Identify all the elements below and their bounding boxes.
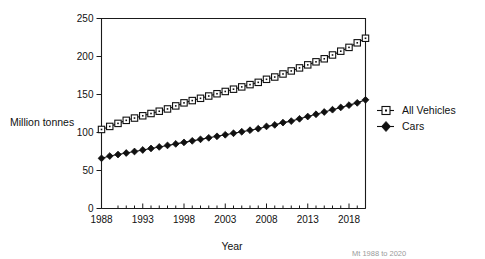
data-point-marker [189,137,196,144]
footnote: Mt 1988 to 2020 [352,249,406,258]
y-tick-label: 0 [88,203,94,214]
x-axis-label: Year [221,240,243,252]
x-axis-ticks [102,204,366,209]
data-point-marker-center [365,37,367,39]
data-point-marker-center [167,108,169,110]
data-point-marker [280,119,287,126]
x-tick-label: 2018 [338,214,361,225]
data-point-marker [106,153,113,160]
legend-label-cars: Cars [402,120,424,132]
data-point-marker [115,151,122,158]
data-point-marker-center [150,113,152,115]
data-point-marker-center [323,58,325,60]
data-point-marker [288,118,295,125]
data-point-marker [205,134,212,141]
data-point-marker-center [290,70,292,72]
line-chart-canvas: 050100150200250 198819931998200320082013… [0,0,485,259]
data-point-marker [329,106,336,113]
data-point-marker [172,141,179,148]
data-point-marker-center [224,91,226,93]
y-axis-ticks [97,19,102,209]
x-tick-label: 2008 [255,214,278,225]
data-point-marker-center [332,54,334,56]
data-point-marker-center [117,123,119,125]
data-point-marker-center [282,73,284,75]
data-point-marker [164,142,171,149]
data-point-marker-center [158,110,160,112]
x-axis-tick-labels: 1988199319982003200820132018 [90,214,360,225]
data-point-marker-center [134,117,136,119]
y-axis-label: Million tonnes [10,116,74,128]
data-point-marker [362,96,369,103]
chart-legend: All Vehicles Cars [377,104,456,132]
data-point-marker-center [274,76,276,78]
legend-item-cars[interactable]: Cars [377,120,424,132]
data-point-marker-center [241,86,243,88]
data-point-marker-center [266,79,268,81]
data-point-marker [222,131,229,138]
data-point-marker-center [175,105,177,107]
data-point-marker [123,150,130,157]
data-point-marker-center [208,95,210,97]
data-point-marker [304,113,311,120]
data-point-marker-center [257,82,259,84]
data-point-marker-center [125,120,127,122]
data-point-marker-center [216,93,218,95]
data-point-marker [271,122,278,129]
data-point-marker-center [109,126,111,128]
data-point-marker [255,125,262,132]
x-tick-label: 1993 [132,214,155,225]
chart-figure: 050100150200250 198819931998200320082013… [0,0,485,259]
data-point-marker-center [191,100,193,102]
data-point-marker-center [315,61,317,63]
x-tick-label: 1988 [90,214,113,225]
y-tick-label: 50 [82,165,94,176]
data-point-marker [98,155,105,162]
series-all-vehicles [98,35,368,133]
x-tick-label: 2013 [297,214,320,225]
y-tick-label: 100 [77,127,94,138]
data-point-marker-center [307,64,309,66]
data-point-marker [238,128,245,135]
data-point-marker-center [183,102,185,104]
data-point-marker-center [200,98,202,100]
data-point-marker [148,145,155,152]
data-point-marker-center [249,84,251,86]
data-point-marker [230,130,237,137]
data-point-marker-center [101,129,103,131]
y-tick-label: 200 [77,51,94,62]
data-point-marker [263,123,270,130]
y-tick-label: 250 [77,13,94,24]
data-point-marker-center [299,67,301,69]
data-point-marker-center [233,88,235,90]
data-point-marker-center [142,115,144,117]
data-point-marker [139,147,146,154]
data-point-marker [131,148,138,155]
y-axis-tick-labels: 050100150200250 [77,13,94,214]
data-point-marker [181,139,188,146]
data-point-marker [214,133,221,140]
data-point-marker [321,109,328,116]
data-point-marker [337,104,344,111]
data-point-marker [247,127,254,134]
x-tick-label: 2003 [214,214,237,225]
legend-label-all-vehicles: All Vehicles [402,104,456,116]
data-point-marker-center [340,50,342,52]
y-tick-label: 150 [77,89,94,100]
data-series-group [98,35,369,162]
data-point-marker-center [356,42,358,44]
data-point-marker [296,115,303,122]
data-point-marker [197,136,204,143]
data-point-marker-center [348,47,350,49]
data-point-marker [354,99,361,106]
x-tick-label: 1998 [173,214,196,225]
data-point-marker [346,102,353,109]
data-point-marker [156,144,163,151]
data-point-marker [313,111,320,118]
legend-item-all-vehicles[interactable]: All Vehicles [377,104,456,116]
series-cars [98,96,369,161]
